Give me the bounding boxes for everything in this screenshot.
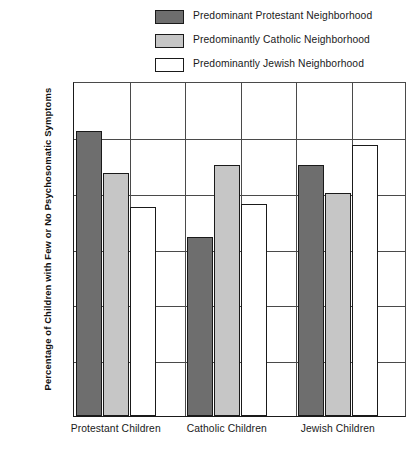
- legend-item-protestant: Predominant Protestant Neighborhood: [155, 6, 415, 27]
- bar: [103, 173, 129, 416]
- gridline-horizontal: [74, 139, 405, 140]
- legend-swatch-catholic: [155, 34, 184, 48]
- x-tick-label: Protestant Children: [71, 423, 161, 434]
- legend-item-jewish: Predominantly Jewish Neighborhood: [155, 54, 415, 75]
- bar: [76, 131, 102, 416]
- bar: [214, 165, 240, 416]
- gridline-vertical: [185, 83, 186, 416]
- gridline-vertical: [296, 83, 297, 416]
- legend-swatch-jewish: [155, 58, 184, 72]
- y-axis-title: Percentage of Children with Few or No Ps…: [42, 91, 53, 391]
- x-tick-label: Jewish Children: [301, 423, 375, 434]
- legend-label-protestant: Predominant Protestant Neighborhood: [193, 11, 372, 21]
- legend-swatch-protestant: [155, 10, 184, 24]
- legend-label-catholic: Predominantly Catholic Neighborhood: [193, 35, 370, 45]
- legend-label-jewish: Predominantly Jewish Neighborhood: [193, 59, 364, 69]
- bar: [130, 207, 156, 416]
- plot-area: 60%50%40%30%20%10%0%Protestant ChildrenC…: [73, 82, 406, 417]
- chart-legend: Predominant Protestant Neighborhood Pred…: [155, 6, 415, 78]
- x-tick-label: Catholic Children: [187, 423, 267, 434]
- bar: [352, 145, 378, 416]
- bar-chart: Predominant Protestant Neighborhood Pred…: [0, 0, 418, 451]
- bar: [298, 165, 324, 416]
- bar: [241, 204, 267, 416]
- bar: [187, 237, 213, 416]
- legend-item-catholic: Predominantly Catholic Neighborhood: [155, 30, 415, 51]
- bar: [325, 193, 351, 416]
